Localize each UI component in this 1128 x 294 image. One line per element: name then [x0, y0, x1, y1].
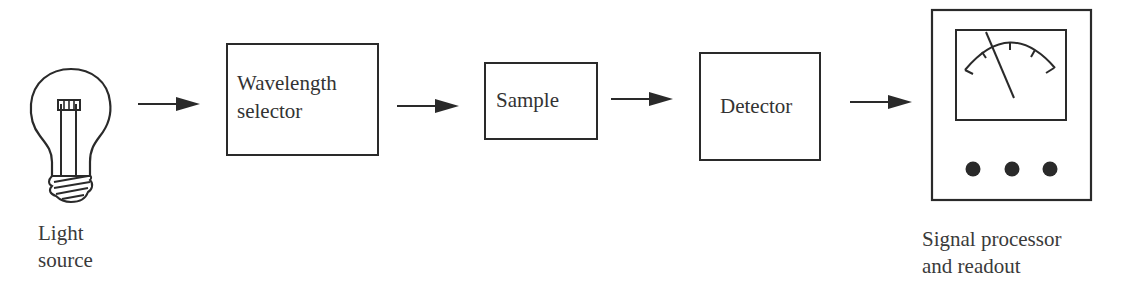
- wavelength-selector-label: Wavelength selector: [237, 69, 337, 125]
- wavelength-selector-label-line-1: Wavelength: [237, 69, 337, 97]
- arrow-icon: [609, 89, 675, 109]
- signal-processor-label: Signal processor and readout: [922, 226, 1061, 280]
- light-bulb-icon: [28, 66, 118, 206]
- meter-readout-icon: [930, 8, 1094, 202]
- light-source-label: Light source: [38, 220, 93, 274]
- detector-box: Detector: [699, 52, 821, 161]
- wavelength-selector-box: Wavelength selector: [226, 43, 379, 156]
- signal-processor-label-line-2: and readout: [922, 253, 1061, 280]
- arrow-icon: [136, 94, 202, 114]
- detector-label: Detector: [720, 92, 792, 120]
- light-source-label-line-2: source: [38, 247, 93, 274]
- wavelength-selector-label-line-2: selector: [237, 97, 337, 125]
- light-source-label-line-1: Light: [38, 220, 93, 247]
- arrow-icon: [395, 96, 461, 116]
- sample-label: Sample: [496, 86, 559, 114]
- arrow-icon: [848, 92, 914, 112]
- sample-box: Sample: [484, 62, 598, 140]
- signal-processor-label-line-1: Signal processor: [922, 226, 1061, 253]
